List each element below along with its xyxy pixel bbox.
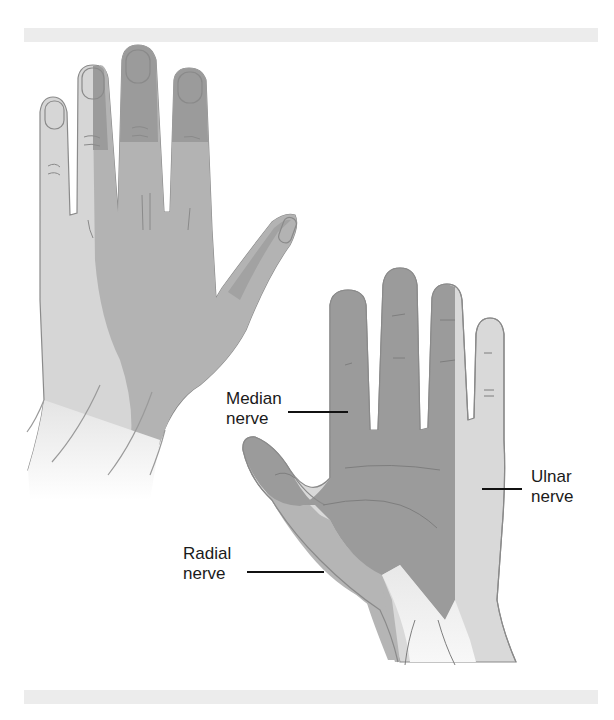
- median-nerve-label: Median nerve: [226, 389, 282, 429]
- radial-nerve-label: Radial nerve: [183, 544, 231, 584]
- palmar-thumb: [243, 437, 312, 506]
- median-leader-line: [288, 411, 348, 413]
- median-label-line1: Median: [226, 389, 282, 409]
- radial-leader-line: [247, 571, 324, 573]
- ulnar-leader-line: [482, 488, 522, 490]
- median-label-line2: nerve: [226, 409, 282, 429]
- hand-illustration: [0, 0, 614, 720]
- dorsal-hand: [27, 45, 298, 500]
- ulnar-label-line1: Ulnar: [531, 467, 574, 487]
- palmar-hand: [243, 268, 516, 665]
- ulnar-nerve-label: Ulnar nerve: [531, 467, 574, 507]
- radial-label-line1: Radial: [183, 544, 231, 564]
- ulnar-label-line2: nerve: [531, 487, 574, 507]
- radial-label-line2: nerve: [183, 564, 231, 584]
